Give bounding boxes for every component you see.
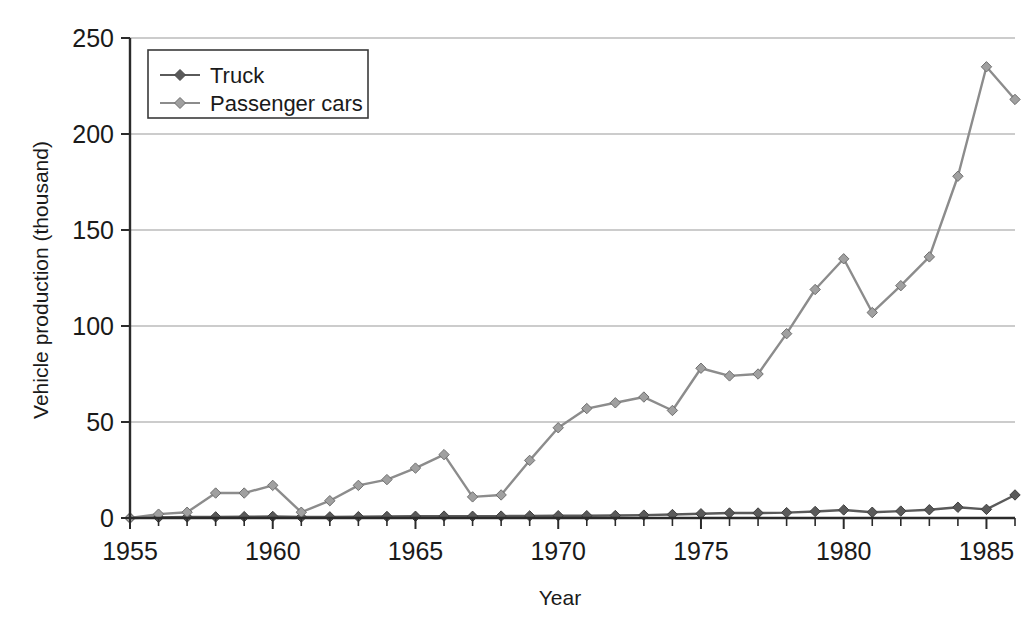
y-tick-label: 50 bbox=[86, 408, 114, 436]
y-tick-label: 200 bbox=[72, 120, 114, 148]
chart-figure: 1955196019651970197519801985 05010015020… bbox=[0, 0, 1036, 624]
x-tick-label: 1975 bbox=[673, 537, 729, 565]
y-tick-label: 0 bbox=[100, 504, 114, 532]
legend-label-truck: Truck bbox=[210, 63, 265, 88]
y-tick-label: 250 bbox=[72, 24, 114, 52]
x-axis-title: Year bbox=[539, 586, 581, 609]
legend-label-passenger-cars: Passenger cars bbox=[210, 91, 363, 116]
x-tick-label: 1960 bbox=[245, 537, 301, 565]
x-tick-label: 1965 bbox=[388, 537, 444, 565]
y-tick-label: 100 bbox=[72, 312, 114, 340]
x-tick-label: 1970 bbox=[530, 537, 586, 565]
x-tick-label: 1955 bbox=[102, 537, 158, 565]
legend: Truck Passenger cars bbox=[148, 50, 368, 118]
y-tick-label: 150 bbox=[72, 216, 114, 244]
vehicle-production-line-chart: 1955196019651970197519801985 05010015020… bbox=[0, 0, 1036, 624]
x-tick-label: 1985 bbox=[959, 537, 1015, 565]
y-axis-title: Vehicle production (thousand) bbox=[29, 141, 52, 419]
x-tick-label: 1980 bbox=[816, 537, 872, 565]
